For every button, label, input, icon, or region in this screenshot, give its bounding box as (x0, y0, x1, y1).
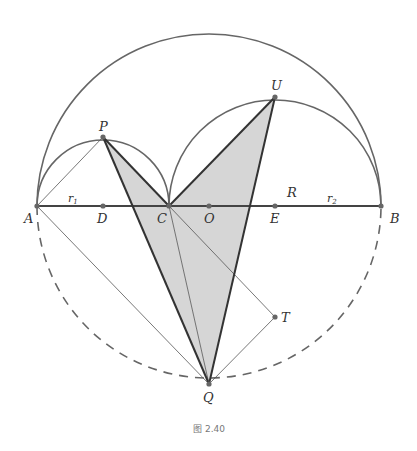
point-p (100, 134, 105, 139)
label-b: B (389, 211, 400, 226)
point-t (272, 314, 277, 319)
label-r2: r2 (327, 192, 337, 206)
label-o: O (204, 211, 215, 226)
point-e (272, 203, 277, 208)
point-c (166, 203, 171, 208)
label-r1: r1 (68, 192, 78, 206)
label-big-r: R (286, 185, 297, 200)
point-u (272, 94, 277, 99)
label-q: Q (203, 390, 214, 405)
label-p: P (98, 119, 108, 134)
point-q (206, 381, 211, 386)
point-d (100, 203, 105, 208)
figure-caption: 图 2.40 (193, 424, 225, 434)
point-b (378, 203, 383, 208)
label-a: A (23, 211, 33, 226)
label-c: C (157, 211, 167, 226)
label-e: E (269, 211, 280, 226)
shaded-triangle-ucq (169, 97, 275, 384)
label-u: U (271, 78, 283, 93)
label-d: D (96, 211, 108, 226)
point-o (206, 203, 211, 208)
point-a (34, 203, 39, 208)
label-t: T (281, 310, 291, 325)
geometry-figure: A D C O E B P U T Q r1 R r2 图 2.40 (0, 0, 417, 451)
